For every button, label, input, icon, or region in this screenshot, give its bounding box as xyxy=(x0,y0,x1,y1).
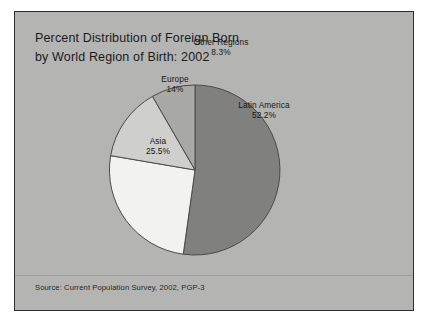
pie-label-other-regions: Other Regions 8.3% xyxy=(191,37,251,57)
pie-label-latin-america-value: 52.2% xyxy=(252,110,276,120)
pie-label-latin-america: Latin America 52.2% xyxy=(222,100,306,120)
pie-label-europe-value: 14% xyxy=(167,84,184,94)
pie-label-europe-name: Europe xyxy=(161,74,188,84)
chart-figure-panel: Percent Distribution of Foreign Born by … xyxy=(14,11,414,311)
pie-label-europe: Europe 14% xyxy=(145,74,205,94)
pie-label-asia: Asia 25.5% xyxy=(128,136,188,156)
pie-label-asia-name: Asia xyxy=(150,136,167,146)
pie-label-other-regions-value: 8.3% xyxy=(211,47,230,57)
pie-slice-asia[interactable] xyxy=(109,156,195,255)
pie-label-latin-america-name: Latin America xyxy=(238,100,290,110)
pie-label-other-regions-name: Other Regions xyxy=(194,37,249,47)
pie-label-asia-value: 25.5% xyxy=(146,146,170,156)
source-note: Source: Current Population Survey, 2002,… xyxy=(35,283,205,292)
pie-chart: Other Regions 8.3% Europe 14% Asia 25.5%… xyxy=(15,12,415,312)
source-divider xyxy=(15,275,413,276)
